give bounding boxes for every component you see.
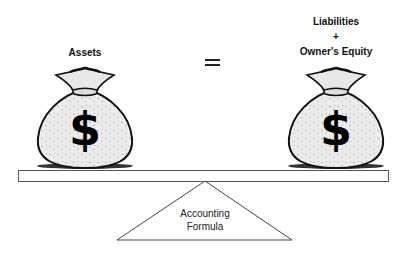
plus-sign: + [290,29,382,44]
owners-equity-label: Owner's Equity [290,44,382,59]
assets-label: Assets [45,45,125,60]
left-dollar-sign: $ [69,102,101,156]
liabilities-label: Liabilities [290,14,382,29]
fulcrum-label-line1: Accounting [165,207,245,220]
balance-beam [19,171,389,182]
fulcrum-label-line2: Formula [165,220,245,233]
equals-sign [205,59,220,69]
right-dollar-sign: $ [320,102,352,156]
